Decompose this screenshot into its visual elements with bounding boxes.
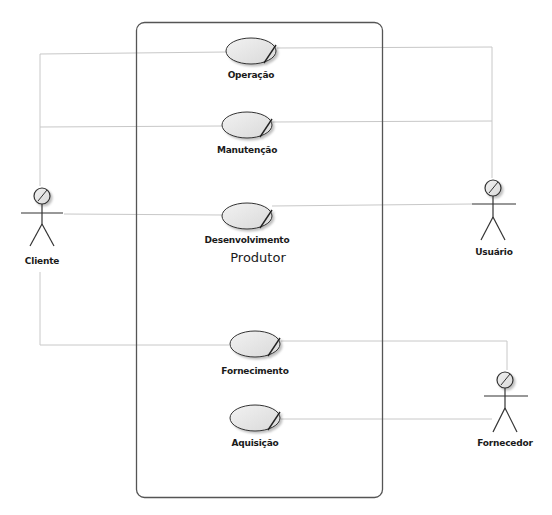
use-case-label-operacao: Operação xyxy=(181,70,321,80)
use-case-label-fornecimento: Fornecimento xyxy=(185,366,325,376)
actor-usuario[interactable] xyxy=(472,180,516,240)
use-case-label-aquisicao: Aquisição xyxy=(185,438,325,448)
association-lines xyxy=(40,47,507,419)
use-case-desenvolvimento[interactable] xyxy=(222,203,272,229)
use-case-label-desenvolvimento: Desenvolvimento xyxy=(177,235,317,245)
association-cliente-manutencao xyxy=(40,126,222,127)
stick-figure-icon xyxy=(21,188,63,246)
actor-label-cliente: Cliente xyxy=(0,256,92,266)
use-case-label-manutencao: Manutenção xyxy=(177,145,317,155)
actor-cliente[interactable] xyxy=(21,188,63,246)
actor-label-usuario: Usuário xyxy=(444,247,544,257)
association-cliente-operacao xyxy=(40,52,226,54)
stick-figure-icon xyxy=(484,372,528,432)
use-case-aquisicao[interactable] xyxy=(230,405,280,431)
use-case-fornecimento[interactable] xyxy=(230,331,280,357)
actor-label-fornecedor: Fornecedor xyxy=(455,438,552,448)
association-cliente-desenvolvimento xyxy=(64,214,222,215)
stick-figure-icon xyxy=(472,180,516,240)
actor-fornecedor[interactable] xyxy=(484,372,528,432)
use-case-manutencao[interactable] xyxy=(222,112,272,138)
association-usuario-desenvolvimento xyxy=(272,204,472,206)
use-case-operacao[interactable] xyxy=(226,38,276,64)
system-name-label: Produtor xyxy=(188,250,328,265)
association-usuario-operacao xyxy=(277,47,492,48)
